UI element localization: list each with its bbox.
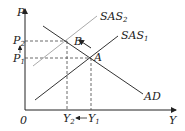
sas1-label: SAS1: [121, 29, 148, 43]
p2-label: P2: [12, 34, 25, 48]
ad-label: AD: [143, 90, 161, 103]
sas2-label: SAS2: [100, 10, 128, 24]
y-axis-label: P: [16, 6, 25, 19]
point-a-label: A: [93, 51, 102, 64]
y1-label: Y1: [88, 112, 100, 126]
x-axis-label: Y: [169, 114, 178, 127]
p1-label: P1: [12, 52, 25, 66]
origin-label: 0: [20, 114, 27, 127]
point-b-label: B: [73, 35, 82, 48]
as-ad-diagram: P Y 0 SAS2 SAS1 AD B A P2 P1 Y2 Y1: [0, 0, 185, 131]
y2-label: Y2: [63, 112, 75, 126]
